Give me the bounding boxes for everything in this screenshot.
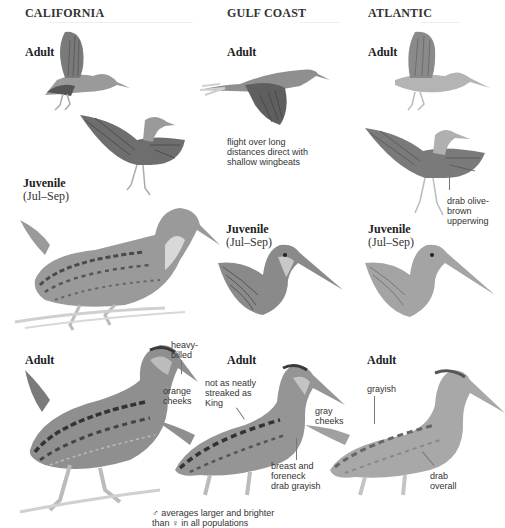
column-header-atlantic: ATLANTIC [368,6,432,21]
header-divider [48,22,193,23]
atlantic-adult-illustration [305,365,505,505]
gulf-flight-note: flight over long distances direct with s… [227,137,308,167]
atlantic-note-upperwing: drab olive- brown upperwing [447,196,489,226]
california-juvenile-title: Juvenile [23,176,66,190]
header-divider [420,22,460,23]
california-juvenile-illustration [15,200,220,330]
atlantic-juvenile-illustration [365,235,500,320]
california-note-heavy-billed: heavy- billed [171,340,198,360]
gulf-adult-flight-illustration [200,60,335,130]
atlantic-adult-flight-illustration [390,30,495,110]
header-divider [300,22,340,23]
atlantic-note-grayish: grayish [367,384,396,394]
column-header-california: CALIFORNIA [25,6,104,21]
gulf-flight-label: Adult [227,46,256,59]
atlantic-note-drab-overall: drab overall [430,471,457,491]
leader-line [296,438,297,460]
footnote-sex-difference: ♂ averages larger and brighter than ♀ in… [152,508,274,528]
california-adult-flight-illustration [35,30,135,110]
column-header-gulf-coast: GULF COAST [227,6,306,21]
gulf-juvenile-title: Juvenile [226,222,269,236]
california-adult-wingspread-illustration [75,110,195,210]
gulf-juvenile-illustration [218,235,343,320]
gulf-note-streaking: not as neatly streaked as King [205,378,256,408]
leader-line [449,160,450,190]
atlantic-juvenile-title: Juvenile [368,222,411,236]
leader-line [374,396,375,424]
